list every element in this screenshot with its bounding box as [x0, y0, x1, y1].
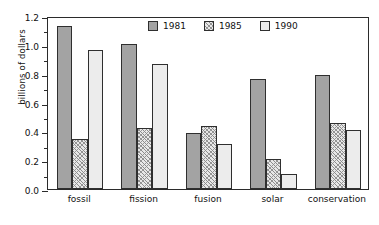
y-axis-tick-label: 1.2 — [25, 13, 39, 23]
x-axis-tick-label-solar: solar — [261, 194, 283, 204]
bar-fission-1981 — [121, 44, 137, 189]
bar-fossil-1985 — [72, 139, 88, 189]
x-axis-tick-label-conservation: conservation — [308, 194, 366, 204]
hatched-swatch — [204, 21, 214, 31]
bar-group — [177, 18, 241, 189]
bar-conservation-1990 — [346, 130, 362, 189]
bar-fossil-1990 — [88, 50, 104, 189]
legend-item-1990: 1990 — [260, 21, 298, 31]
y-axis-tick-label: 1.0 — [25, 42, 39, 52]
bar-conservation-1981 — [315, 75, 331, 189]
bar-solar-1990 — [281, 174, 297, 189]
y-axis-tick-label: 0.6 — [25, 100, 39, 110]
bar-fusion-1981 — [186, 133, 202, 189]
bar-conservation-1985 — [330, 123, 346, 189]
bar-fusion-1990 — [217, 144, 233, 189]
y-axis-tick-label: 0.0 — [25, 186, 39, 196]
y-axis-tick-label: 0.8 — [25, 71, 39, 81]
bar-solar-1981 — [250, 79, 266, 189]
bar-fission-1990 — [152, 64, 168, 189]
solid-gray-swatch — [148, 21, 158, 31]
legend-label: 1985 — [219, 21, 242, 31]
bar-group — [241, 18, 305, 189]
bar-solar-1985 — [266, 159, 282, 189]
x-axis-tick-label-fossil: fossil — [68, 194, 91, 204]
bars-container — [48, 18, 368, 189]
bar-group — [306, 18, 370, 189]
x-axis-tick-label-fission: fission — [129, 194, 158, 204]
legend-item-1981: 1981 — [148, 21, 186, 31]
bar-fusion-1985 — [201, 126, 217, 189]
light-swatch — [260, 21, 270, 31]
legend-label: 1981 — [163, 21, 186, 31]
y-axis-tick-label: 0.4 — [25, 128, 39, 138]
bar-fossil-1981 — [57, 26, 73, 189]
legend-label: 1990 — [275, 21, 298, 31]
bar-chart-figure: billions of dollars 0.00.20.40.60.81.01.… — [0, 0, 379, 225]
plot-area: 0.00.20.40.60.81.01.2 — [47, 17, 369, 190]
y-axis-tick-label: 0.2 — [25, 157, 39, 167]
legend-item-1985: 1985 — [204, 21, 242, 31]
bar-group — [48, 18, 112, 189]
bar-group — [112, 18, 176, 189]
x-axis-tick-label-fusion: fusion — [194, 194, 221, 204]
tick-mark — [42, 191, 48, 192]
bar-fission-1985 — [137, 128, 153, 189]
chart-legend: 198119851990 — [148, 21, 298, 31]
